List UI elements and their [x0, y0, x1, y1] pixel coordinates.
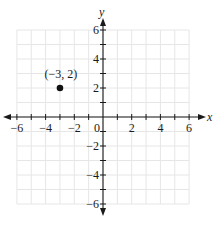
x-tick-label: 0: [94, 121, 100, 135]
y-tick-label: 4: [93, 52, 99, 66]
y-tick-label: −4: [86, 168, 99, 182]
axes: [3, 18, 206, 216]
x-tick-label: −6: [11, 121, 24, 135]
coordinate-plane: −6−4−20246−6−4−2246 x y (−3, 2): [0, 0, 219, 227]
x-axis-label: x: [206, 110, 213, 124]
x-axis-left-arrow-icon: [3, 114, 11, 120]
x-tick-label: −4: [39, 121, 52, 135]
y-tick-label: 6: [93, 23, 99, 37]
x-tick-label: 2: [129, 121, 135, 135]
point-label: (−3, 2): [45, 67, 78, 81]
x-tick-label: 6: [186, 121, 192, 135]
y-tick-label: 2: [93, 81, 99, 95]
y-tick-label: −6: [86, 197, 99, 211]
y-axis-label: y: [98, 5, 105, 19]
data-point: [57, 85, 64, 92]
x-axis-right-arrow-icon: [198, 114, 206, 120]
y-axis-up-arrow-icon: [100, 18, 106, 26]
y-axis-down-arrow-icon: [100, 208, 106, 216]
x-tick-label: 4: [157, 121, 163, 135]
y-tick-label: −2: [86, 139, 99, 153]
x-tick-label: −2: [68, 121, 81, 135]
